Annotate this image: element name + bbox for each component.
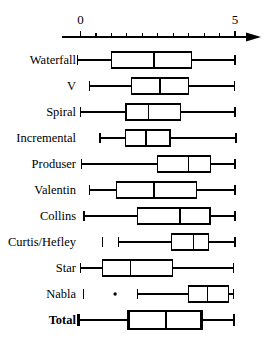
category-label-waterfall: Waterfall [30,54,76,67]
boxplot-row [78,52,235,68]
boxplot-chart: WaterfallVSpiralIncrementalProduserValen… [0,0,269,351]
boxplot-row [103,234,235,250]
box-iqr [126,130,170,146]
box-iqr [103,260,173,276]
box-iqr [172,234,209,250]
boxplot-row [84,208,235,224]
box-series [78,52,236,329]
category-label-valentin: Valentin [34,184,76,197]
boxplot-row [81,260,234,276]
outlier-point [113,292,116,295]
axis-arrow-icon [246,32,261,41]
category-label-spiral: Spiral [46,106,76,119]
category-label-collins: Collins [40,210,76,223]
boxplot-row [83,286,233,302]
box-iqr [137,208,210,224]
category-label-star: Star [56,262,76,275]
category-label-nabla: Nabla [46,288,76,301]
category-label-total: Total [49,314,76,327]
box-iqr [117,182,197,198]
box-iqr [112,52,192,68]
boxplot-row [89,78,234,94]
x-axis [62,31,261,42]
axis-tick-label-0: 0 [69,13,93,26]
boxplot-row [78,311,234,329]
boxplot-row [82,156,235,172]
axis-tick-label-5: 5 [223,13,247,26]
box-iqr [157,156,210,172]
boxplot-row [89,182,235,198]
box-iqr [126,104,181,120]
category-label-produser: Produser [32,158,76,171]
category-label-incremental: Incremental [16,132,76,145]
category-label-v: V [67,80,76,93]
category-label-curtis-hefley: Curtis/Hefley [8,236,76,249]
boxplot-row [81,104,235,120]
boxplot-row [100,130,236,146]
